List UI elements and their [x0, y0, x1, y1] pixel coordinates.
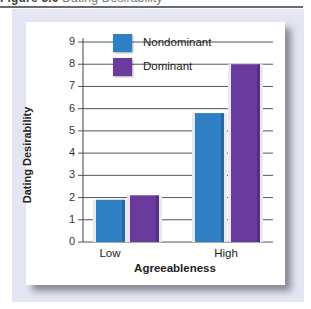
bar-nondominant-high	[192, 113, 227, 242]
y-tick-8: 8	[63, 57, 75, 69]
legend-swatch-dominant	[113, 58, 132, 76]
bar-dominant-low	[127, 195, 162, 242]
legend-label-nondominant: Nondominant	[143, 36, 211, 48]
y-tick-0: 0	[63, 235, 75, 247]
y-tick-7: 7	[63, 79, 75, 91]
y-tick-9: 9	[63, 35, 75, 47]
bar-dominant-high	[228, 64, 263, 242]
bar-chart: Dating Desirability 0123456789 Low High …	[0, 0, 311, 309]
x-tick-high: High	[214, 247, 238, 259]
legend-swatch-nondominant	[113, 34, 132, 52]
y-tick-6: 6	[63, 102, 75, 114]
y-tick-4: 4	[63, 146, 75, 158]
x-axis-label: Agreeableness	[134, 262, 216, 274]
x-tick-low: Low	[99, 247, 120, 259]
y-tick-3: 3	[63, 168, 75, 180]
y-tick-1: 1	[63, 213, 75, 225]
y-axis-label: Dating Desirability	[21, 107, 33, 204]
legend-label-dominant: Dominant	[143, 60, 192, 72]
bar-nondominant-low	[93, 200, 128, 242]
y-tick-2: 2	[63, 191, 75, 203]
y-tick-5: 5	[63, 124, 75, 136]
